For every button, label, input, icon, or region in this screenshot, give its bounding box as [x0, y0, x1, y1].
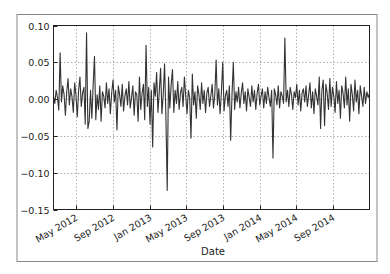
y-tick-label: 0.10 [28, 21, 49, 32]
y-tick-label: −0.15 [20, 205, 49, 216]
y-tick-label: −0.10 [20, 168, 49, 179]
chart-figure: 0.100.050.00−0.05−0.10−0.15 May 2012Sep … [0, 0, 390, 274]
x-axis-label: Date [201, 246, 225, 257]
y-tick-label: −0.05 [20, 131, 49, 142]
y-tick-label: 0.05 [28, 57, 49, 68]
y-tick-label: 0.00 [28, 94, 49, 105]
